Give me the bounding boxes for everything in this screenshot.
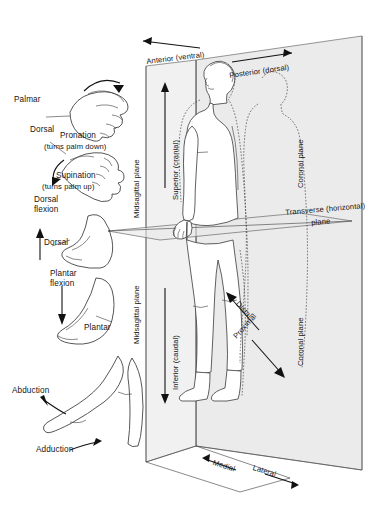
label-midsagittal-plane-upper: Midsagittal plane xyxy=(133,159,141,218)
label-superior-cranial: Superior (cranial) xyxy=(172,140,180,200)
label-coronal-plane-lower: Coronal plane xyxy=(297,317,305,366)
abduction-adduction-illustration xyxy=(40,356,143,450)
label-dorsal-surface-foot: Dorsal xyxy=(44,239,68,248)
label-pronation: Pronation xyxy=(60,132,96,141)
label-coronal-plane-upper: Coronal plane xyxy=(297,139,305,188)
label-midsagittal-plane-lower: Midsagittal plane xyxy=(133,285,141,344)
label-plantar-flexion-line1: Plantar xyxy=(50,270,77,279)
label-supination: Supination xyxy=(56,172,96,181)
label-supination-detail: (turns palm up) xyxy=(42,183,95,191)
midsagittal-plane-shape xyxy=(146,60,196,462)
label-dorsal-surface-hand: Dorsal xyxy=(30,126,54,135)
label-adduction: Adduction xyxy=(36,446,73,455)
label-inferior-caudal: Inferior (caudal) xyxy=(172,335,180,390)
label-plantar-flexion-line2: flexion xyxy=(50,280,74,289)
label-dorsal-flexion-line1: Dorsal xyxy=(34,196,58,205)
label-dorsal-flexion-line2: flexion xyxy=(34,206,58,215)
label-abduction: Abduction xyxy=(12,387,49,396)
label-pronation-detail: (turns palm down) xyxy=(44,143,106,151)
anterior-arrow xyxy=(143,37,200,48)
label-palmar-surface: Palmar xyxy=(14,96,41,105)
label-plantar-surface: Plantar xyxy=(84,324,111,333)
label-transverse-plane-line2: plane xyxy=(311,217,331,227)
anatomical-planes-diagram xyxy=(0,0,386,505)
